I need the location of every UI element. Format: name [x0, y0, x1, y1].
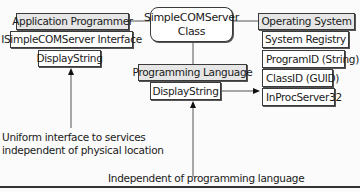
inprocserver32-entry: InProcServer32	[262, 88, 335, 106]
class-label: Class	[178, 25, 205, 39]
operating-system-box: Operating System	[258, 13, 355, 30]
programming-language-box: Programming Language	[138, 64, 247, 81]
programid-entry: ProgramID (String)	[262, 50, 345, 68]
system-registry-box: System Registry	[262, 31, 349, 48]
uniform-note-line1: Uniform interface to services	[2, 131, 142, 144]
language-independence-note: Independent of programming language	[108, 172, 278, 185]
application-programmer-box: Application Programmer	[16, 13, 129, 30]
interface-box: ISimpleCOMServer Interface	[10, 31, 133, 48]
classid-entry: ClassID (GUID)	[262, 69, 333, 87]
uniform-interface-note: Uniform interface to services independen…	[2, 131, 142, 157]
uniform-note-line2: independent of physical location	[2, 144, 142, 157]
simplecomserver-class-box: SimpleCOMServer Class	[150, 7, 233, 42]
class-name: SimpleCOMServer	[144, 11, 239, 25]
middle-displaystring-box: DisplayString	[150, 82, 221, 100]
left-displaystring-box: DisplayString	[38, 50, 101, 67]
